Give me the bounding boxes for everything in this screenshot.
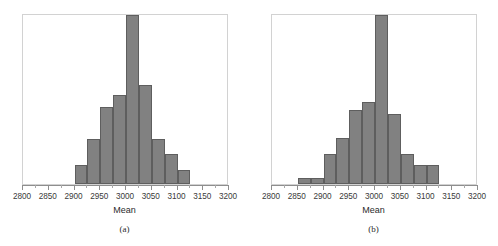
histogram-bar: [414, 165, 427, 184]
histogram-bar: [87, 139, 100, 184]
histogram-bar: [100, 107, 113, 184]
histogram-bar: [139, 85, 152, 184]
histogram-bar: [165, 154, 178, 184]
x-axis-tick-labels-a: 280028502900295030003050310031503200: [0, 191, 249, 203]
x-axis-tick-label: 3150: [193, 191, 211, 202]
plot-frame-b: [271, 14, 477, 185]
x-axis-tick-major: [22, 185, 23, 190]
x-axis-tick-label: 2850: [39, 191, 57, 202]
histogram-bar: [427, 165, 440, 184]
x-axis-tick-minor: [464, 185, 465, 188]
x-axis-tick-major: [125, 185, 126, 190]
histogram-bar: [401, 154, 414, 184]
x-axis-tick-label: 3050: [391, 191, 409, 202]
x-axis-tick-minor: [387, 185, 388, 188]
x-axis-tick-minor: [335, 185, 336, 188]
x-axis-tick-major: [271, 185, 272, 190]
x-axis-tick-major: [228, 185, 229, 190]
histogram-bar: [126, 15, 139, 184]
histogram-bar: [113, 95, 126, 184]
x-axis-tick-label: 3200: [219, 191, 237, 202]
histogram-bar: [152, 139, 165, 184]
panel-b: 280028502900295030003050310031503200 Mea…: [249, 0, 498, 246]
x-axis-tick-label: 3150: [442, 191, 460, 202]
x-axis-tick-minor: [215, 185, 216, 188]
plot-frame-a: [22, 14, 228, 185]
x-axis-tick-label: 3050: [142, 191, 160, 202]
histogram-bar: [375, 15, 388, 184]
x-axis-tick-minor: [112, 185, 113, 188]
x-axis-tick-minor: [413, 185, 414, 188]
x-axis-tick-major: [348, 185, 349, 190]
panel-a: 280028502900295030003050310031503200 Mea…: [0, 0, 249, 246]
x-axis-tick-labels-b: 280028502900295030003050310031503200: [249, 191, 498, 203]
x-axis-tick-minor: [86, 185, 87, 188]
x-axis-tick-minor: [138, 185, 139, 188]
x-axis-tick-minor: [189, 185, 190, 188]
x-axis-tick-major: [374, 185, 375, 190]
x-axis-tick-major: [323, 185, 324, 190]
x-axis-title-b: Mean: [249, 205, 498, 215]
x-axis-tick-minor: [310, 185, 311, 188]
x-axis-tick-major: [477, 185, 478, 190]
x-axis-tick-minor: [361, 185, 362, 188]
x-axis-tick-major: [177, 185, 178, 190]
histogram-bar: [349, 110, 362, 184]
panel-caption-b: (b): [249, 224, 498, 234]
histogram-bar: [324, 154, 337, 184]
x-axis-tick-label: 2800: [13, 191, 31, 202]
x-axis-tick-minor: [164, 185, 165, 188]
histogram-bar: [311, 178, 324, 184]
x-axis-tick-major: [426, 185, 427, 190]
panel-caption-a: (a): [0, 224, 249, 234]
plot-area-b: [272, 15, 476, 184]
x-axis-tick-minor: [438, 185, 439, 188]
x-axis-tick-label: 2850: [288, 191, 306, 202]
x-axis-tick-label: 2900: [314, 191, 332, 202]
histogram-bar: [388, 114, 401, 184]
x-axis-tick-major: [48, 185, 49, 190]
histogram-bar: [178, 170, 191, 184]
x-axis-tick-label: 3100: [168, 191, 186, 202]
x-axis-tick-minor: [61, 185, 62, 188]
x-axis-tick-label: 2900: [65, 191, 83, 202]
x-axis-tick-major: [99, 185, 100, 190]
x-axis-tick-label: 3000: [116, 191, 134, 202]
x-axis-tick-major: [74, 185, 75, 190]
x-axis-tick-label: 2800: [262, 191, 280, 202]
histogram-figure: 280028502900295030003050310031503200 Mea…: [0, 0, 498, 246]
histogram-bar: [362, 102, 375, 184]
x-axis-tick-major: [400, 185, 401, 190]
x-axis-tick-label: 3000: [365, 191, 383, 202]
x-axis-tick-major: [451, 185, 452, 190]
x-axis-tick-major: [202, 185, 203, 190]
plot-area-a: [23, 15, 227, 184]
x-axis-tick-minor: [284, 185, 285, 188]
x-axis-tick-label: 3200: [468, 191, 486, 202]
x-axis-tick-label: 3100: [417, 191, 435, 202]
histogram-bar: [75, 165, 88, 184]
x-axis-tick-major: [151, 185, 152, 190]
x-axis-tick-label: 2950: [90, 191, 108, 202]
x-axis-tick-label: 2950: [339, 191, 357, 202]
x-axis-tick-minor: [35, 185, 36, 188]
histogram-bar: [336, 138, 349, 184]
x-axis-title-a: Mean: [0, 205, 249, 215]
histogram-bar: [298, 178, 311, 184]
x-axis-tick-major: [297, 185, 298, 190]
